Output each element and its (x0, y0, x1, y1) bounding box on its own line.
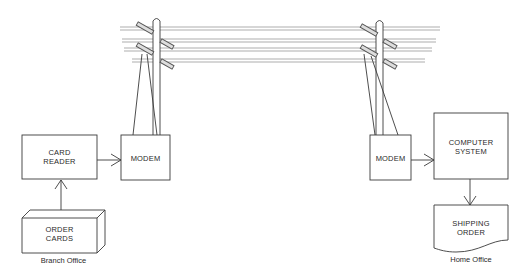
order-cards-label: ORDER CARDS (22, 226, 97, 243)
modem-left-label: MODEM (121, 155, 170, 164)
computer-system-label: COMPUTER SYSTEM (434, 139, 508, 156)
arrow-computer-to-shipping (464, 179, 476, 205)
arrow-reader-to-modem (97, 154, 121, 166)
right-telephone-pole (360, 21, 398, 136)
arrow-modem-to-computer (411, 154, 434, 166)
shipping-order-label: SHIPPING ORDER (434, 220, 508, 237)
modem-right-label: MODEM (370, 155, 411, 164)
card-reader-label: CARD READER (22, 149, 97, 166)
home-office-caption: Home Office (434, 255, 508, 264)
branch-office-caption: Branch Office (22, 256, 105, 265)
arrow-order-to-reader (55, 180, 67, 210)
left-telephone-pole (133, 19, 174, 136)
